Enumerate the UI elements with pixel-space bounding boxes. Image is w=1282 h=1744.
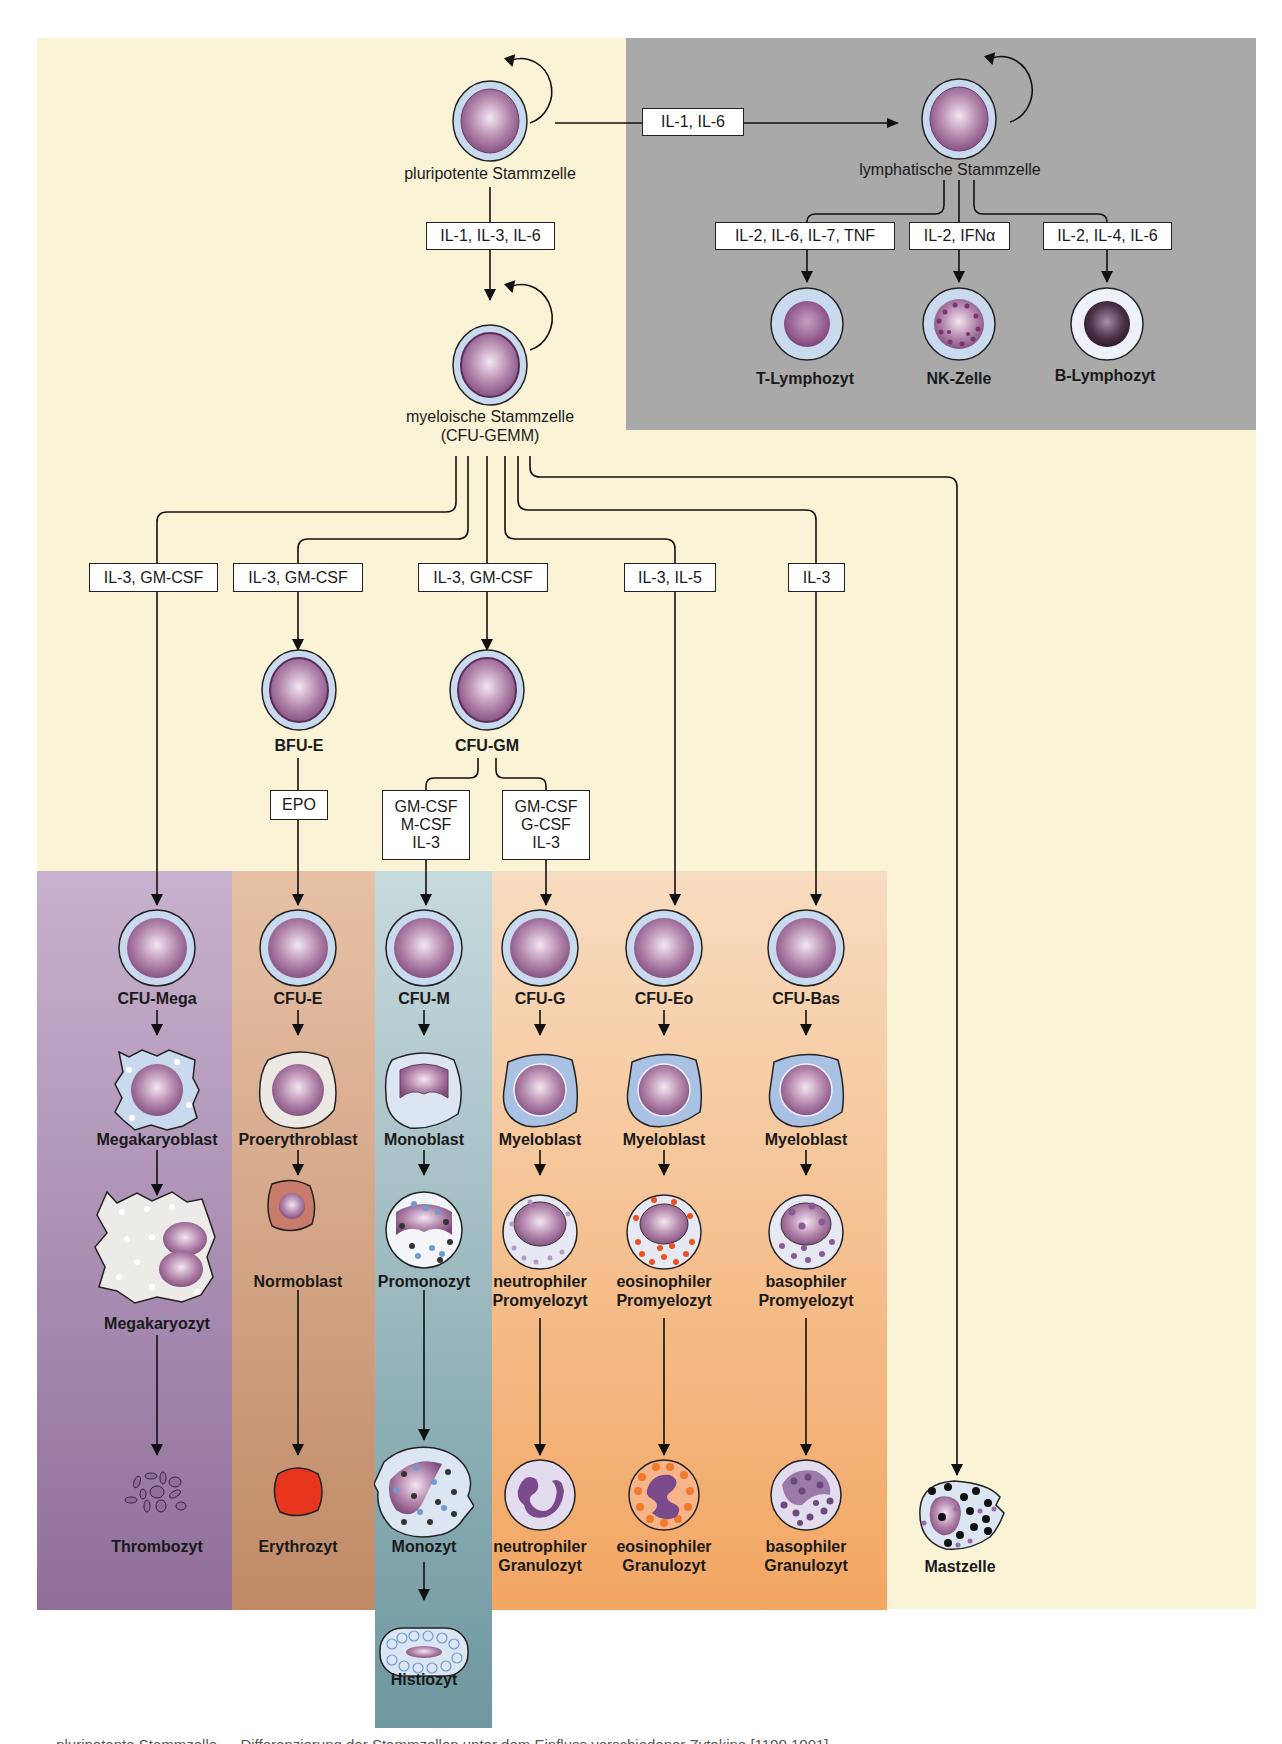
t-lymphocyte-cell bbox=[769, 286, 845, 362]
label-pluripotent-stem-cell: pluripotente Stammzelle bbox=[404, 164, 576, 183]
label-basophil-granulocyte: basophiler Granulozyt bbox=[764, 1537, 848, 1575]
label-proerythroblast: Proerythroblast bbox=[238, 1130, 357, 1149]
label-promonocyte: Promonozyt bbox=[378, 1272, 470, 1291]
neutrophil-promyelocyte-cell bbox=[500, 1192, 580, 1272]
label-line: eosinophiler bbox=[616, 1537, 711, 1556]
label-line: myeloische Stammzelle bbox=[406, 407, 574, 426]
monocyte-cell bbox=[374, 1442, 474, 1542]
myeloblast-neutrophil-cell bbox=[498, 1048, 582, 1132]
label-myeloid-stem-cell: myeloische Stammzelle (CFU-GEMM) bbox=[406, 407, 574, 445]
bfu-e-cell bbox=[259, 648, 339, 732]
label-line: basophiler bbox=[758, 1272, 853, 1291]
cfu-eo-cell bbox=[624, 908, 704, 988]
mast-cell bbox=[912, 1477, 1008, 1553]
label-line: Promyelozyt bbox=[758, 1291, 853, 1310]
label-megakaryoblast: Megakaryoblast bbox=[97, 1130, 218, 1149]
proerythroblast-cell bbox=[256, 1048, 340, 1132]
neutrophil-granulocyte-cell bbox=[502, 1457, 578, 1533]
label-eosinophil-promyelocyte: eosinophiler Promyelozyt bbox=[616, 1272, 711, 1310]
label-line: Promyelozyt bbox=[492, 1291, 587, 1310]
label-cfu-eo: CFU-Eo bbox=[635, 989, 694, 1008]
label-b-lymphocyte: B-Lymphozyt bbox=[1055, 366, 1156, 385]
monoblast-cell bbox=[382, 1048, 466, 1132]
cytokine-line: GM-CSF bbox=[514, 798, 577, 816]
cytokine-box-granulocyte: GM-CSF G-CSF IL-3 bbox=[502, 790, 590, 860]
nk-cell bbox=[921, 286, 997, 362]
cytokine-box-eosinophil: IL-3, IL-5 bbox=[624, 563, 716, 592]
label-normoblast: Normoblast bbox=[254, 1272, 343, 1291]
figure-caption: … pluripotente Stammzelle … Differenzier… bbox=[37, 1736, 1267, 1744]
label-cfu-bas: CFU-Bas bbox=[772, 989, 840, 1008]
cytokine-box-monocyte: GM-CSF M-CSF IL-3 bbox=[382, 790, 470, 860]
label-line: basophiler bbox=[764, 1537, 848, 1556]
label-histiocyte: Histiozyt bbox=[391, 1670, 458, 1689]
cytokine-line: G-CSF bbox=[521, 816, 571, 834]
basophil-granulocyte-cell bbox=[768, 1457, 844, 1533]
label-myeloblast-g: Myeloblast bbox=[499, 1130, 582, 1149]
label-bfu-e: BFU-E bbox=[275, 736, 324, 755]
label-cfu-mega: CFU-Mega bbox=[117, 989, 196, 1008]
label-cfu-g: CFU-G bbox=[515, 989, 566, 1008]
label-neutrophil-granulocyte: neutrophiler Granulozyt bbox=[493, 1537, 586, 1575]
promonocyte-cell bbox=[384, 1190, 464, 1270]
cytokine-line: IL-3 bbox=[532, 834, 560, 852]
label-myeloblast-bas: Myeloblast bbox=[765, 1130, 848, 1149]
myeloblast-eosinophil-cell bbox=[622, 1048, 706, 1132]
lymphatic-stem-cell bbox=[919, 77, 999, 161]
myeloblast-basophil-cell bbox=[764, 1048, 848, 1132]
eosinophil-promyelocyte-cell bbox=[624, 1192, 704, 1272]
eosinophil-granulocyte-cell bbox=[626, 1457, 702, 1533]
b-lymphocyte-cell bbox=[1069, 286, 1145, 362]
cytokine-box-t-lymphocyte: IL-2, IL-6, IL-7, TNF bbox=[715, 222, 895, 250]
label-line: eosinophiler bbox=[616, 1272, 711, 1291]
cfu-g-cell bbox=[500, 908, 580, 988]
label-basophil-promyelocyte: basophiler Promyelozyt bbox=[758, 1272, 853, 1310]
erythrocyte-cell bbox=[270, 1464, 326, 1520]
pluripotent-stem-cell bbox=[450, 79, 530, 163]
label-line: Granulozyt bbox=[493, 1556, 586, 1575]
label-monocyte: Monozyt bbox=[392, 1537, 457, 1556]
cfu-m-cell bbox=[384, 908, 464, 988]
label-cfu-e: CFU-E bbox=[274, 989, 323, 1008]
cytokine-line: M-CSF bbox=[401, 816, 452, 834]
cfu-mega-cell bbox=[117, 908, 197, 988]
cfu-e-cell bbox=[258, 908, 338, 988]
cfu-gm-cell bbox=[447, 648, 527, 732]
megakaryocyte-cell bbox=[92, 1182, 222, 1312]
label-megakaryocyte: Megakaryozyt bbox=[104, 1314, 210, 1333]
cytokine-line: IL-3 bbox=[412, 834, 440, 852]
thrombocyte-cells bbox=[122, 1467, 192, 1517]
cytokine-box-cfu-gm: IL-3, GM-CSF bbox=[418, 563, 548, 592]
myeloid-stem-cell bbox=[450, 323, 530, 407]
cfu-bas-cell bbox=[766, 908, 846, 988]
label-line: (CFU-GEMM) bbox=[406, 426, 574, 445]
cytokine-box-b-lymphocyte: IL-2, IL-4, IL-6 bbox=[1043, 222, 1172, 250]
label-t-lymphocyte: T-Lymphozyt bbox=[756, 369, 854, 388]
megakaryoblast-cell bbox=[112, 1045, 202, 1135]
cytokine-box-nk-cell: IL-2, IFNα bbox=[909, 222, 1010, 250]
normoblast-cell bbox=[264, 1176, 320, 1236]
cytokine-box-basophil: IL-3 bbox=[788, 563, 845, 592]
label-cfu-m: CFU-M bbox=[398, 989, 450, 1008]
label-monoblast: Monoblast bbox=[384, 1130, 464, 1149]
cytokine-box-epo: EPO bbox=[270, 790, 328, 820]
cytokine-box-to-myeloid: IL-1, IL-3, IL-6 bbox=[426, 222, 555, 250]
label-line: Granulozyt bbox=[616, 1556, 711, 1575]
label-thrombocyte: Thrombozyt bbox=[111, 1537, 203, 1556]
label-line: neutrophiler bbox=[492, 1272, 587, 1291]
label-eosinophil-granulocyte: eosinophiler Granulozyt bbox=[616, 1537, 711, 1575]
cytokine-box-mega: IL-3, GM-CSF bbox=[89, 563, 218, 592]
label-nk-cell: NK-Zelle bbox=[927, 369, 992, 388]
label-cfu-gm: CFU-GM bbox=[455, 736, 519, 755]
label-neutrophil-promyelocyte: neutrophiler Promyelozyt bbox=[492, 1272, 587, 1310]
label-lymphatic-stem-cell: lymphatische Stammzelle bbox=[859, 160, 1040, 179]
label-mast-cell: Mastzelle bbox=[924, 1557, 995, 1576]
cytokine-box-to-lymphatic: IL-1, IL-6 bbox=[642, 108, 744, 136]
label-myeloblast-eo: Myeloblast bbox=[623, 1130, 706, 1149]
basophil-promyelocyte-cell bbox=[766, 1192, 846, 1272]
label-line: neutrophiler bbox=[493, 1537, 586, 1556]
label-line: Granulozyt bbox=[764, 1556, 848, 1575]
cytokine-line: GM-CSF bbox=[394, 798, 457, 816]
label-erythrocyte: Erythrozyt bbox=[258, 1537, 337, 1556]
label-line: Promyelozyt bbox=[616, 1291, 711, 1310]
